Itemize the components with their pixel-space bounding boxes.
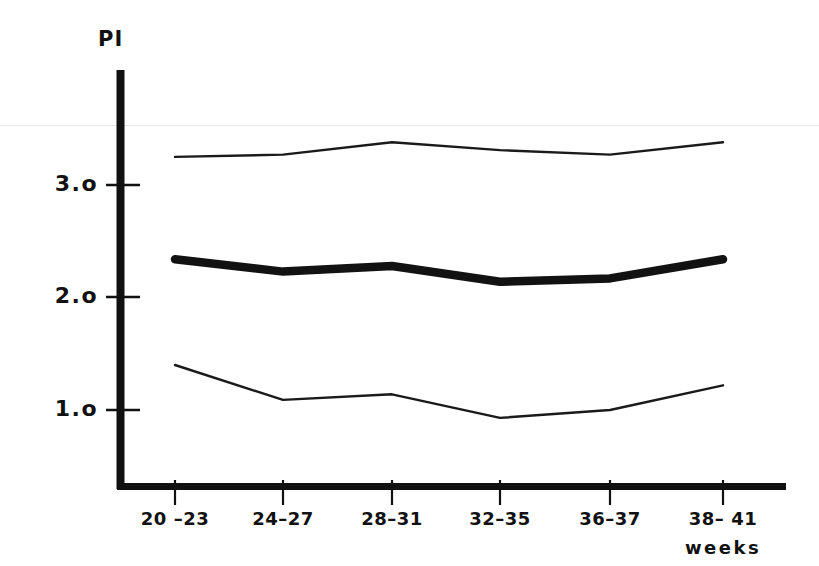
x-tick-label-28-31: 28–31 <box>332 508 452 529</box>
x-tick-label-20-23: 20 –23 <box>115 508 235 529</box>
y-tick-label-3: 3.o <box>28 171 98 196</box>
x-tick-label-38-41: 38– 41 <box>663 508 783 529</box>
y-axis-title: PI <box>98 27 123 51</box>
x-tick-label-32-35: 32–35 <box>440 508 560 529</box>
x-axis-unit-label: weeks <box>663 537 783 558</box>
series-line-mean <box>175 259 723 282</box>
y-tick-label-1: 1.o <box>28 396 98 421</box>
chart-figure: PI 3.o 2.o 1.o 20 –23 24–27 28–31 32–35 … <box>0 0 819 566</box>
series-line-lower <box>175 365 723 418</box>
y-tick-label-2: 2.o <box>28 283 98 308</box>
x-tick-label-24-27: 24–27 <box>223 508 343 529</box>
chart-plot-area <box>0 0 819 566</box>
series-line-upper <box>175 142 723 157</box>
x-tick-label-36-37: 36–37 <box>550 508 670 529</box>
